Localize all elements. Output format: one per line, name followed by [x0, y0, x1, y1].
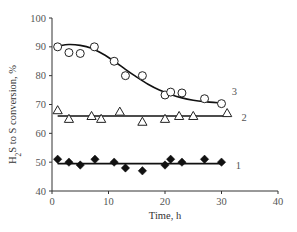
circle-marker: [218, 100, 226, 108]
diamond-marker: [53, 155, 61, 163]
conversion-vs-time-chart: 405060708090100010203040 123 Time, h H2S…: [0, 0, 297, 232]
diamond-marker: [91, 155, 99, 163]
triangle-marker: [138, 117, 147, 125]
circle-marker: [121, 72, 129, 80]
circle-marker: [65, 49, 73, 57]
series-1: [53, 155, 225, 175]
series-label-2: 2: [241, 112, 246, 123]
circle-marker: [138, 72, 146, 80]
series-label-3: 3: [232, 86, 237, 97]
axes: 405060708090100010203040: [30, 13, 283, 208]
diamond-marker: [121, 164, 129, 172]
circle-marker: [167, 88, 175, 96]
diamond-marker: [110, 158, 118, 166]
y-axis-title-post: S to S conversion, %: [7, 65, 18, 153]
x-tick-label: 40: [273, 196, 284, 207]
y-axis-title: H2S to S conversion, %: [7, 65, 23, 164]
diamond-marker: [178, 158, 186, 166]
circle-marker: [76, 49, 84, 57]
y-tick-label: 50: [36, 157, 47, 168]
series-layer: 123: [53, 43, 247, 175]
circle-marker: [110, 57, 118, 65]
x-axis-title: Time, h: [149, 210, 182, 221]
chart: 405060708090100010203040 123 Time, h H2S…: [0, 0, 297, 232]
triangle-marker: [115, 107, 124, 115]
y-tick-label: 40: [36, 186, 47, 197]
x-tick-label: 20: [160, 196, 171, 207]
diamond-marker: [76, 161, 84, 169]
y-tick-label: 60: [36, 128, 47, 139]
diamond-marker: [166, 155, 174, 163]
y-tick-label: 70: [36, 99, 47, 110]
series-2: [53, 106, 232, 126]
diamond-marker: [138, 167, 146, 175]
x-tick-label: 0: [49, 196, 54, 207]
series-3: [54, 43, 226, 108]
y-tick-label: 100: [30, 13, 46, 24]
y-tick-label: 80: [36, 70, 47, 81]
circle-marker: [201, 95, 209, 103]
x-tick-label: 10: [103, 196, 114, 207]
x-tick-label: 30: [216, 196, 227, 207]
triangle-marker: [53, 106, 62, 114]
diamond-marker: [200, 155, 208, 163]
y-tick-label: 90: [36, 41, 47, 52]
diamond-marker: [65, 158, 73, 166]
diamond-marker: [217, 158, 225, 166]
circle-marker: [178, 89, 186, 97]
diamond-marker: [161, 161, 169, 169]
triangle-marker: [223, 109, 232, 117]
series-label-1: 1: [236, 160, 241, 171]
circle-marker: [90, 43, 98, 51]
circle-marker: [54, 43, 62, 51]
